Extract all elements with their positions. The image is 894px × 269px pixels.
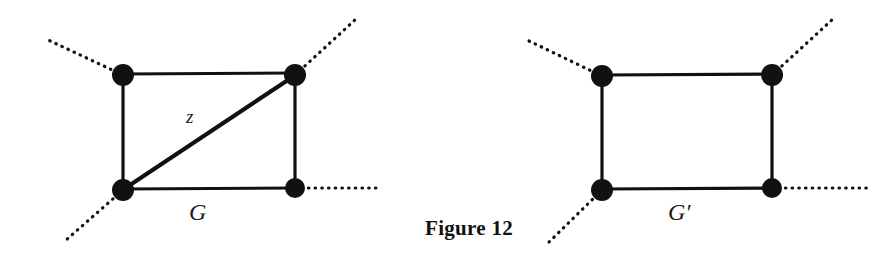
vertex-bottom-left [591,179,613,201]
dotted-half-edge-bottom-left [65,190,123,241]
graph-G-prime-dotted-edges [527,18,871,243]
edge-top [123,73,295,74]
edge-top [602,74,772,75]
dotted-half-edge-top-left [46,39,123,75]
graph-G-prime [527,18,871,243]
graph-G-solid-edges [123,73,295,190]
vertex-top-left [112,64,134,86]
vertex-bottom-right [762,178,782,198]
dotted-half-edge-top-right [772,18,834,75]
graph-G-prime-vertices [591,64,783,201]
vertex-top-left [591,65,613,87]
graph-label-G-prime: G′ [668,200,691,224]
vertex-bottom-left [112,179,134,201]
vertex-top-right [284,64,306,86]
graph-G-prime-solid-edges [602,74,772,190]
edge-label-z: z [186,107,193,126]
graph-G [46,19,377,241]
edge-bottom [123,188,295,189]
dotted-half-edge-top-left [527,40,602,76]
dotted-half-edge-top-right [295,19,356,75]
edge-diagonal-z [124,76,294,189]
vertex-bottom-right [285,178,305,198]
dotted-half-edge-bottom-left [548,190,602,243]
figure-caption: Figure 12 [425,218,513,239]
vertex-top-right [761,64,783,86]
edge-bottom [602,188,772,189]
graph-label-G: G [189,200,206,224]
figure-container: z G G′ Figure 12 [0,0,894,269]
